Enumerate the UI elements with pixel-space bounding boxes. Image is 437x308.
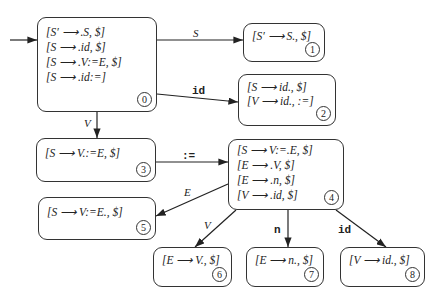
state-6: [E ⟶ V., $] 6	[153, 247, 232, 287]
state-8: [V ⟶ id., $] 8	[340, 247, 425, 287]
item: [E ⟶ .n, $]	[237, 174, 295, 187]
state-number: 4	[324, 190, 339, 205]
state-number: 5	[136, 220, 151, 235]
item: [S ⟶ .id, $]	[46, 41, 106, 54]
item: [S ⟶ V.:=E, $]	[45, 147, 120, 160]
item: [V ⟶ .id, $]	[237, 189, 298, 202]
item: [S ⟶ .V:=E, $]	[46, 56, 122, 69]
item: [S′ ⟶ S., $]	[252, 30, 311, 43]
item: [V ⟶ id., :=]	[247, 95, 314, 108]
item: [V ⟶ id., $]	[349, 254, 410, 267]
state-5: [S ⟶ V:=E., $] 5	[38, 197, 156, 240]
state-1: [S′ ⟶ S., $] 1	[243, 23, 325, 62]
state-number: 6	[212, 267, 227, 282]
item: [S ⟶ .id:=]	[46, 71, 106, 84]
item: [S ⟶ V:=E., $]	[47, 206, 123, 219]
state-0: [S′ ⟶ .S, $] [S ⟶ .id, $] [S ⟶ .V:=E, $]…	[37, 17, 157, 112]
item: [S ⟶ V:=.E, $]	[237, 144, 313, 157]
label-0-3: V	[84, 117, 91, 129]
state-2: [S ⟶ id., $] [V ⟶ id., :=] 2	[238, 74, 336, 126]
edge-4-6	[195, 210, 236, 247]
state-number: 3	[136, 162, 151, 177]
state-number: 0	[137, 92, 152, 107]
state-number: 7	[304, 267, 319, 282]
label-4-5: E	[184, 186, 191, 198]
label-3-4: :=	[182, 150, 195, 162]
state-number: 2	[316, 106, 331, 121]
state-7: [E ⟶ n., $] 7	[246, 247, 324, 287]
state-3: [S ⟶ V.:=E, $] 3	[36, 138, 156, 182]
label-4-7: n	[274, 224, 281, 236]
item: [E ⟶ n., $]	[255, 254, 313, 267]
label-0-1: S	[193, 27, 199, 39]
state-number: 1	[305, 42, 320, 57]
item: [E ⟶ .V, $]	[237, 159, 295, 172]
state-4: [S ⟶ V:=.E, $] [E ⟶ .V, $] [E ⟶ .n, $] […	[228, 139, 344, 210]
label-0-2: id	[192, 85, 205, 97]
item: [S ⟶ id., $]	[247, 81, 307, 94]
item: [S′ ⟶ .S, $]	[46, 26, 105, 39]
label-4-8: id	[338, 224, 351, 236]
edge-4-5	[156, 184, 228, 216]
item: [E ⟶ V., $]	[162, 254, 220, 267]
state-number: 8	[405, 267, 420, 282]
label-4-6: V	[204, 219, 211, 231]
